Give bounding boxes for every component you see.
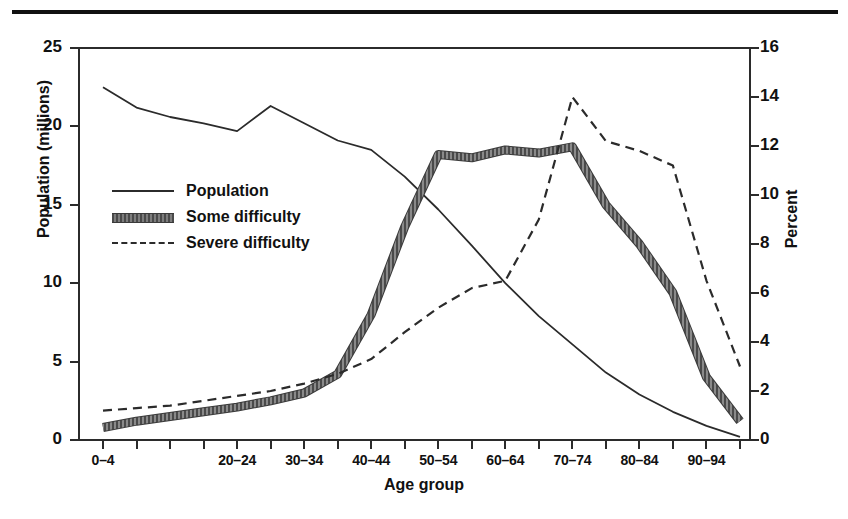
legend-label-severe-difficulty: Severe difficulty xyxy=(186,234,310,252)
legend-item-severe-difficulty: Severe difficulty xyxy=(112,230,310,256)
legend-swatch-solid-line-icon xyxy=(112,184,174,198)
chart-figure: 0510152025 0246810121416 0–420–2430–3440… xyxy=(0,0,848,519)
legend-swatch-dashed-line-icon xyxy=(112,236,174,250)
series-line-population xyxy=(103,87,740,437)
chart-legend: Population Some difficulty Severe diffic… xyxy=(112,178,310,256)
legend-label-some-difficulty: Some difficulty xyxy=(186,208,301,226)
legend-item-population: Population xyxy=(112,178,310,204)
legend-label-population: Population xyxy=(186,182,269,200)
legend-swatch-thick-line-icon xyxy=(112,210,174,224)
legend-item-some-difficulty: Some difficulty xyxy=(112,204,310,230)
series-plot-layer xyxy=(0,0,848,519)
